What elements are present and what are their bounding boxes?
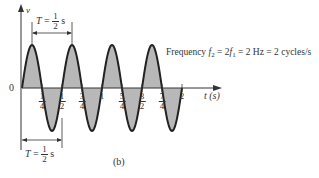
x-tick-label: 54 bbox=[119, 92, 126, 111]
x-tick-label: 2 bbox=[180, 92, 185, 101]
y-axis-arrow-icon bbox=[18, 4, 24, 12]
period-label-bottom: T = 12 s bbox=[25, 145, 54, 164]
origin-label: 0 bbox=[9, 83, 14, 93]
x-tick-label: 1 bbox=[100, 92, 105, 101]
x-tick-label: 34 bbox=[79, 92, 86, 111]
x-tick-label: 12 bbox=[59, 92, 66, 111]
figure-caption: (b) bbox=[113, 157, 125, 167]
x-tick-label: 32 bbox=[139, 92, 146, 111]
period-label-top: T = 12 s bbox=[36, 12, 65, 31]
x-tick-label: 74 bbox=[159, 92, 166, 111]
x-axis-label: t (s) bbox=[204, 91, 220, 101]
frequency-annotation: Frequency f2 = 2f1 = 2 Hz = 2 cycles/s bbox=[166, 48, 311, 59]
y-axis-label: v bbox=[26, 6, 30, 15]
x-tick-label: 14 bbox=[39, 92, 46, 111]
